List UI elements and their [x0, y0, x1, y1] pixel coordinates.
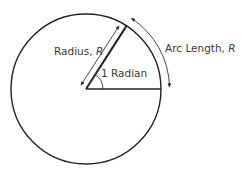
arc-length-label: Arc Length, R: [165, 42, 236, 54]
slanted-radius-line: [86, 26, 127, 89]
radius-label: Radius, R: [54, 45, 103, 57]
radian-diagram: Radius, R 1 Radian Arc Length, R: [0, 0, 242, 185]
angle-label: 1 Radian: [101, 67, 147, 79]
